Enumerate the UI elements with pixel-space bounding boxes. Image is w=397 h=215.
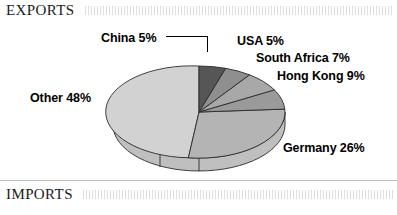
exports-section-title: EXPORTS [6, 2, 85, 19]
pie-label-germany: Germany 26% [283, 141, 365, 155]
imports-decorative-bar [83, 190, 393, 199]
exports-section-header: EXPORTS [6, 2, 393, 19]
pie-label-china: China 5% [101, 31, 156, 45]
imports-section-header: IMPORTS [6, 186, 393, 203]
exports-decorative-bar [85, 6, 393, 15]
imports-section-title: IMPORTS [6, 186, 83, 203]
pie-label-other: Other 48% [30, 91, 91, 105]
exports-chart-page: EXPORTS [0, 0, 397, 215]
china-leader-line-horizontal [166, 36, 208, 37]
section-divider [0, 180, 397, 181]
pie-slices [106, 66, 285, 158]
pie-label-usa: USA 5% [237, 34, 284, 48]
pie-slice-other [106, 66, 199, 158]
china-leader-line-vertical [207, 36, 208, 52]
pie-label-south-africa: South Africa 7% [256, 51, 350, 65]
pie-label-hong-kong: Hong Kong 9% [277, 69, 365, 83]
